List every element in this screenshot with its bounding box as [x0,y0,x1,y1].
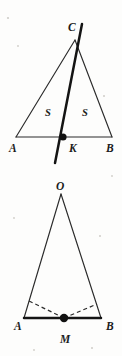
segment-side-BC [75,40,112,137]
label-vertex-a-top: A [8,142,17,154]
label-point-m: M [59,333,71,345]
segment-side-AC [16,40,75,137]
point-K-dot [59,133,66,140]
point-M-dot [60,314,68,322]
label-point-k: K [68,142,78,154]
dashed-segment-left [29,301,64,318]
label-area-left-s: S [45,107,51,118]
segment-side-OB [61,194,101,318]
figures-canvas: A B C K S S O A B M [0,0,122,356]
figure-triangle-oab: O A B M [13,180,114,345]
label-vertex-o: O [56,180,64,192]
figure-triangle-abc: A B C K S S [8,21,114,163]
dashed-segment-right [64,304,97,318]
label-vertex-b-top: B [105,142,114,154]
label-vertex-b-bottom: B [105,320,114,332]
geometry-figure-sheet: A B C K S S O A B M [0,0,122,356]
label-vertex-c-top: C [68,21,76,33]
label-area-right-s: S [82,107,88,118]
label-vertex-a-bottom: A [13,320,22,332]
segment-side-OA [24,194,61,318]
